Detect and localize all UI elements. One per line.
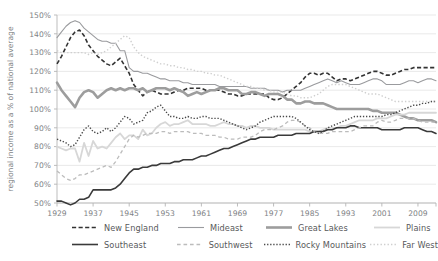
series-line-far-west: [57, 36, 436, 102]
legend-label-great-lakes: Great Lakes: [298, 223, 348, 233]
x-tick-label: 1961: [192, 209, 211, 218]
legend-item-southeast[interactable]: Southeast: [72, 240, 177, 250]
legend-item-mideast[interactable]: Mideast: [178, 223, 266, 233]
y-tick-label: 130%: [29, 48, 51, 57]
legend-swatch-mideast: [178, 223, 204, 232]
legend-swatch-new-england: [72, 223, 98, 232]
legend-label-plains: Plains: [406, 223, 431, 233]
legend-item-great-lakes[interactable]: Great Lakes: [266, 223, 374, 233]
legend-label-rocky-mountains: Rocky Mountains: [296, 240, 367, 250]
legend-swatch-plains: [374, 223, 400, 232]
legend-label-southwest: Southwest: [209, 240, 253, 250]
legend-label-southeast: Southeast: [104, 240, 146, 250]
x-tick-label: 1969: [228, 209, 247, 218]
x-tick-label: 1985: [300, 209, 319, 218]
x-tick-label: 1953: [156, 209, 175, 218]
legend-swatch-great-lakes: [266, 223, 292, 232]
x-tick-label: 2009: [408, 209, 427, 218]
legend-item-rocky-mountains[interactable]: Rocky Mountains: [264, 240, 371, 250]
legend-item-plains[interactable]: Plains: [374, 223, 431, 233]
legend-label-far-west: Far West: [402, 240, 438, 250]
legend-item-southwest[interactable]: Southwest: [177, 240, 264, 250]
x-tick-label: 2001: [372, 209, 391, 218]
line-chart: 150%140%130%120%110%100%90%80%70%60%50%1…: [0, 0, 438, 222]
legend-label-mideast: Mideast: [210, 223, 243, 233]
x-tick-label: 1993: [336, 209, 355, 218]
y-tick-label: 60%: [34, 180, 51, 189]
y-tick-label: 110%: [29, 86, 51, 95]
chart-legend: New England Mideast Great Lakes Plains S…: [0, 219, 438, 261]
legend-item-new-england[interactable]: New England: [72, 223, 178, 233]
series-line-mideast: [57, 21, 436, 92]
legend-label-new-england: New England: [104, 223, 159, 233]
legend-swatch-far-west: [370, 240, 396, 249]
x-tick-label: 1977: [264, 209, 283, 218]
y-tick-label: 120%: [29, 67, 51, 76]
legend-item-far-west[interactable]: Far West: [370, 240, 438, 250]
x-tick-label: 1937: [83, 209, 102, 218]
x-tick-label: 1929: [47, 209, 66, 218]
y-tick-label: 100%: [29, 105, 51, 114]
legend-swatch-southwest: [177, 240, 203, 249]
legend-row-1: New England Mideast Great Lakes Plains: [0, 219, 438, 236]
y-tick-label: 140%: [29, 30, 51, 39]
y-tick-label: 150%: [29, 11, 51, 20]
chart-screenshot: 150%140%130%120%110%100%90%80%70%60%50%1…: [0, 0, 438, 261]
y-tick-label: 70%: [34, 161, 51, 170]
legend-swatch-rocky-mountains: [264, 240, 290, 249]
x-tick-label: 1945: [120, 209, 139, 218]
legend-row-2: Southeast Southwest Rocky Mountains Far …: [0, 236, 438, 253]
legend-swatch-southeast: [72, 240, 98, 249]
chart-svg: 150%140%130%120%110%100%90%80%70%60%50%1…: [0, 0, 438, 222]
y-tick-label: 50%: [34, 199, 51, 208]
y-tick-label: 90%: [34, 124, 51, 133]
y-axis-title: regional income as a % of national avera…: [6, 26, 15, 191]
y-tick-label: 80%: [34, 142, 51, 151]
